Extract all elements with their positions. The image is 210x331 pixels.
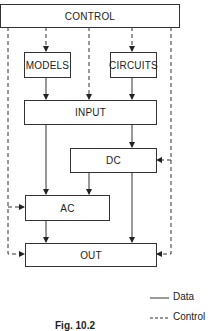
legend-data-text: Data — [173, 291, 194, 302]
input-label: INPUT — [75, 107, 106, 118]
circuits-label: CIRCUITS — [109, 60, 158, 71]
control-node: CONTROL — [0, 4, 180, 28]
ac-node: AC — [25, 195, 110, 221]
legend-control-text: Control — [173, 311, 205, 322]
models-node: MODELS — [24, 52, 71, 78]
control-label: CONTROL — [65, 11, 115, 22]
dc-node: DC — [70, 148, 157, 173]
input-node: INPUT — [24, 100, 157, 125]
circuits-node: CIRCUITS — [110, 52, 157, 78]
dc-label: DC — [106, 155, 121, 166]
figure-caption: Fig. 10.2 — [55, 320, 95, 331]
ac-label: AC — [60, 203, 74, 214]
out-node: OUT — [25, 243, 157, 267]
models-label: MODELS — [26, 60, 69, 71]
out-label: OUT — [80, 250, 102, 261]
